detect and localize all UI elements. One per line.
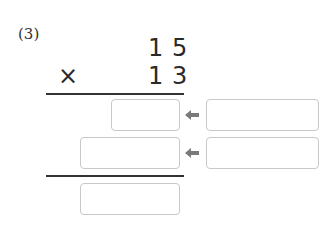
multiplier-tens-digit: 1 xyxy=(148,64,163,88)
helper-2-input[interactable] xyxy=(206,137,319,169)
helper-1-input[interactable] xyxy=(206,99,319,131)
multiplier-ones-digit: 3 xyxy=(172,64,187,88)
problem-number-label: (3) xyxy=(18,25,39,43)
multiplicand-ones-digit: 5 xyxy=(172,36,187,60)
left-arrow-icon xyxy=(185,110,199,120)
multiply-operator: × xyxy=(58,64,78,88)
bottom-divider-line xyxy=(46,175,184,177)
left-arrow-icon xyxy=(185,148,199,158)
multiplicand-tens-digit: 1 xyxy=(148,36,163,60)
partial-product-2-input[interactable] xyxy=(80,137,180,169)
partial-product-1-input[interactable] xyxy=(111,99,180,131)
final-product-input[interactable] xyxy=(80,183,180,215)
top-divider-line xyxy=(46,93,184,95)
